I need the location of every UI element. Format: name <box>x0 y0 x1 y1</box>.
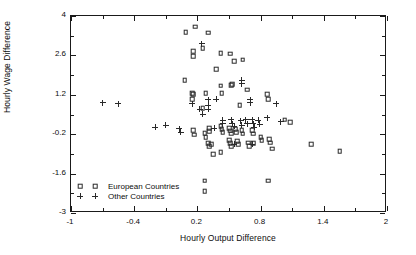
legend-plus-icon <box>84 192 106 200</box>
data-point-plus <box>199 41 205 47</box>
data-point-square <box>202 189 207 194</box>
data-point-plus <box>273 101 279 107</box>
data-point-square <box>266 97 271 102</box>
data-point-plus <box>205 106 211 112</box>
data-point-square <box>214 67 219 72</box>
data-point-square <box>288 120 293 125</box>
legend-square-icon-left <box>76 182 84 190</box>
data-point-plus <box>247 100 253 106</box>
data-point-plus <box>220 121 226 127</box>
data-point-plus <box>100 100 106 106</box>
data-point-square <box>309 142 314 147</box>
data-point-plus <box>249 141 255 147</box>
data-point-plus <box>163 122 169 128</box>
y-tick-label: 2.6 <box>6 50 66 58</box>
y-tick-label: 4 <box>6 11 66 19</box>
x-tick-label: 0.2 <box>176 218 216 226</box>
data-point-square <box>218 83 223 88</box>
data-point-square <box>240 57 245 62</box>
y-tick-label: -0.2 <box>6 129 66 137</box>
data-point-square <box>182 78 187 83</box>
data-point-square <box>191 54 196 59</box>
data-point-plus <box>231 123 237 129</box>
y-axis-title: Hourly Wage Difference <box>2 21 12 113</box>
data-point-square <box>230 82 235 87</box>
data-point-plus <box>178 129 184 135</box>
data-point-square <box>234 130 239 135</box>
data-point-plus <box>264 115 270 121</box>
scatter-plot-figure: Hourly Wage Difference Hourly Output Dif… <box>0 0 416 255</box>
legend: European Countries Other Countries <box>76 181 179 201</box>
data-point-square <box>337 149 342 154</box>
data-point-plus <box>152 124 158 130</box>
data-point-plus <box>211 125 217 131</box>
data-point-square <box>251 131 256 136</box>
data-point-square <box>192 132 197 137</box>
data-point-square <box>240 131 245 136</box>
legend-label-european-countries: European Countries <box>108 182 179 191</box>
data-point-square <box>204 135 209 140</box>
data-point-square <box>220 130 225 135</box>
data-point-square <box>209 142 214 147</box>
data-point-square <box>193 24 198 29</box>
data-point-plus <box>213 96 219 102</box>
data-point-square <box>266 178 271 183</box>
legend-item-other-countries: Other Countries <box>76 191 179 201</box>
data-point-square <box>232 59 237 64</box>
data-point-plus <box>278 119 284 125</box>
data-point-plus <box>200 111 206 117</box>
data-point-square <box>204 91 209 96</box>
x-tick-label: -1 <box>50 218 90 226</box>
data-point-square <box>211 152 216 157</box>
data-point-plus <box>257 121 263 127</box>
y-tick-label: 1.2 <box>6 90 66 98</box>
x-tick-label: 1.4 <box>303 218 343 226</box>
x-tick-label: 0.8 <box>240 218 280 226</box>
data-point-square <box>245 87 250 92</box>
x-tick-label: 2 <box>366 218 406 226</box>
data-point-square <box>202 178 207 183</box>
data-point-square <box>184 30 189 35</box>
y-tick-label: -3 <box>6 208 66 216</box>
data-point-square <box>206 31 211 36</box>
data-point-plus <box>115 101 121 107</box>
data-point-square <box>259 138 264 143</box>
data-point-square <box>219 91 224 96</box>
data-point-plus <box>189 101 195 107</box>
data-point-plus <box>231 141 237 147</box>
data-point-square <box>270 147 275 152</box>
legend-plus-icon-left <box>76 192 84 200</box>
legend-square-icon <box>84 182 106 190</box>
data-point-plus <box>239 81 245 87</box>
legend-item-european-countries: European Countries <box>76 181 179 191</box>
x-tick-label: -0.4 <box>113 218 153 226</box>
x-axis-title: Hourly Output Difference <box>70 233 386 243</box>
y-tick-label: -1.6 <box>6 169 66 177</box>
data-point-square <box>229 131 234 136</box>
data-point-square <box>218 150 223 155</box>
data-point-square <box>268 140 273 145</box>
data-point-square <box>218 51 223 56</box>
legend-label-other-countries: Other Countries <box>108 192 164 201</box>
data-point-square <box>237 103 242 108</box>
data-point-square <box>228 51 233 56</box>
